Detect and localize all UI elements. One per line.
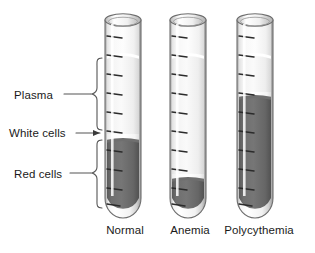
plasma-brace [92, 58, 102, 130]
tube-polycythemia-highlight [243, 24, 246, 196]
tube-normal [105, 14, 141, 222]
tube-polycythemia-rim [237, 14, 273, 26]
red-cells-callout [70, 140, 102, 208]
white-cells-callout [76, 130, 100, 136]
tube-normal-rim [105, 14, 141, 26]
tube-polycythemia [237, 14, 273, 222]
tube-caption-normal: Normal [90, 224, 160, 236]
white-cells-label: White cells [9, 127, 66, 139]
tube-anemia [170, 14, 206, 222]
plasma-callout [64, 58, 102, 130]
plasma-label: Plasma [14, 89, 53, 101]
tube-anemia-rim [170, 14, 206, 26]
white-cells-arrowhead [93, 130, 100, 136]
tube-normal-highlight [111, 24, 114, 196]
hematocrit-figure: Plasma White cells Red cells Normal Anem… [0, 0, 315, 253]
red-cells-brace [92, 140, 102, 208]
tube-caption-polycythemia: Polycythemia [214, 224, 304, 236]
tube-anemia-highlight [176, 24, 179, 196]
red-cells-label: Red cells [14, 168, 62, 180]
